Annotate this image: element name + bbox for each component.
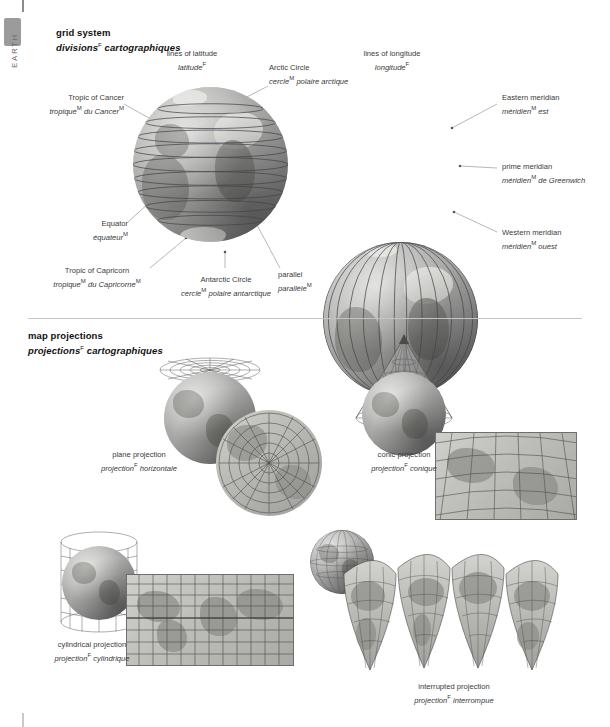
label-western-meridian: Western meridian méridienM ouest (502, 228, 610, 252)
latitude-grid (133, 87, 288, 242)
page-root: EARTH grid system divisionsF cartographi… (0, 0, 610, 727)
label-tropic-of-capricorn: Tropic of Capricorn tropiqueM du Caprico… (22, 266, 172, 290)
globe-latitude (133, 87, 288, 242)
caption-cylindrical-projection: cylindrical projection projectionF cylin… (16, 640, 168, 664)
cylindrical-projection-globe (62, 546, 136, 620)
rail-mark-top (22, 0, 24, 12)
conic-projection-globe (362, 372, 446, 456)
label-parallel: parallel parallèleM (278, 270, 358, 294)
chapter-label: EARTH (10, 20, 19, 82)
globe-shading (62, 546, 136, 620)
label-arctic-circle: Arctic Circle cercleM polaire arctique (269, 63, 399, 87)
map-projections-title-fr: projectionsF cartographiques (28, 342, 163, 357)
caption-conic-projection: conic projection projectionF conique (330, 450, 478, 474)
section-divider (28, 318, 582, 319)
conic-map-grid (436, 433, 577, 520)
section-header-map-projections: map projections projectionsF cartographi… (28, 330, 163, 357)
caption-interrupted-projection: interrupted projection projectionF inter… (368, 682, 540, 706)
map-projections-title-en: map projections (28, 330, 163, 342)
label-antarctic-circle: Antarctic Circle cercleM polaire antarct… (180, 275, 272, 299)
plane-projection-illustration (152, 348, 322, 498)
conic-projection-map (435, 432, 577, 520)
label-equator: Equator équateurM (24, 219, 128, 243)
label-prime-meridian: prime meridian méridienM de Greenwich (502, 162, 610, 186)
globe-shading (362, 372, 446, 456)
lines-of-latitude-heading: lines of latitude latitudeF (132, 49, 252, 73)
label-eastern-meridian: Eastern meridian méridienM est (502, 93, 610, 117)
interrupted-projection-map (336, 552, 580, 678)
azimuthal-grid (216, 410, 322, 516)
caption-plane-projection: plane projection projectionF horizontale (64, 450, 214, 474)
grid-system-title-en: grid system (56, 27, 181, 39)
interrupted-lobes-diagram (336, 552, 580, 678)
plane-projection-polar-map (216, 410, 322, 516)
label-tropic-of-cancer: Tropic of Cancer tropiqueM du CancerM (4, 93, 124, 117)
rail-mark-bottom (22, 713, 24, 727)
